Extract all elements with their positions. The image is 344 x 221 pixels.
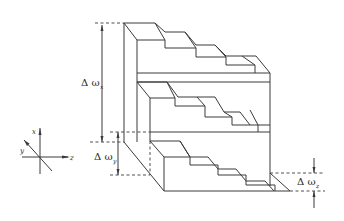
axis-z-label: z: [69, 154, 74, 162]
delta-y-label: Δ ω: [94, 151, 113, 162]
delta-y-subscript: y: [112, 157, 117, 165]
delta-x-subscript: x: [100, 83, 104, 90]
axis-triad: x y z: [19, 128, 74, 174]
block-outline: [124, 23, 270, 186]
dimension-delta-x: Δ ω x: [81, 23, 124, 142]
delta-z-label: Δ ω: [297, 176, 316, 187]
tier-middle: [137, 82, 270, 141]
axis-y-label: y: [19, 147, 25, 155]
tier-bottom: [124, 141, 290, 191]
delta-x-label: Δ ω: [81, 77, 100, 88]
dimension-delta-z: Δ ω z: [270, 158, 325, 208]
tier-top: [124, 23, 270, 73]
stepped-block-diagram: Δ ω x Δ ω y Δ ω z x y z: [0, 0, 344, 221]
dimension-delta-y: Δ ω y: [90, 132, 150, 175]
delta-z-subscript: z: [315, 182, 320, 189]
axis-x-label: x: [32, 128, 36, 136]
